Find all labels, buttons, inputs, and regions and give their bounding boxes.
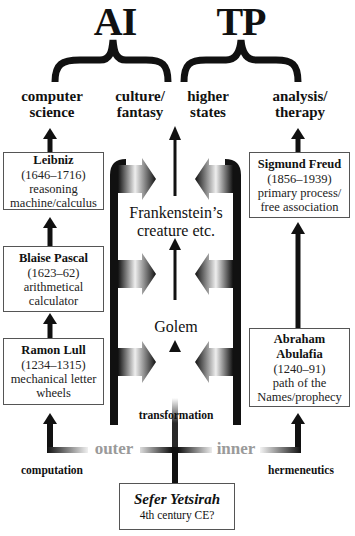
- left-gradient-arrows: [118, 158, 156, 383]
- leibniz-box: Leibniz (1646–1716) reasoning machine/ca…: [3, 152, 104, 210]
- hermeneutics-label: hermeneutics: [258, 465, 344, 477]
- left-thick-bar: [114, 163, 126, 425]
- computation-label: computation: [12, 465, 92, 477]
- frankenstein-label: Frankenstein’s creature etc.: [120, 204, 232, 240]
- sefer-yetsirah-box: Sefer Yetsirah 4th century CE?: [119, 483, 235, 530]
- pascal-box: Blaise Pascal (1623–62) arithmetical cal…: [3, 246, 104, 312]
- category-analysis-therapy: analysis/ therapy: [258, 88, 342, 120]
- category-culture-fantasy: culture/ fantasy: [108, 88, 172, 120]
- ai-group-title: AI: [86, 2, 144, 42]
- outer-label: outer: [88, 440, 140, 457]
- right-thick-bar: [225, 163, 237, 425]
- center-arrows: [169, 126, 181, 403]
- lull-box: Ramon Lull (1234–1315) mechanical letter…: [3, 338, 104, 405]
- right-gradient-arrows: [195, 158, 233, 383]
- transformation-label: transformation: [130, 410, 222, 422]
- abulafia-box: Abraham Abulafia (1240–91) path of the N…: [249, 328, 350, 407]
- ai-brace: [55, 40, 168, 82]
- inner-label: inner: [212, 440, 260, 457]
- golem-label: Golem: [140, 318, 212, 336]
- category-computer-science: computer science: [2, 88, 102, 120]
- tp-group-title: TP: [209, 2, 273, 42]
- diagram-canvas: AI TP computer science culture/ fantasy …: [0, 0, 355, 536]
- freud-box: Sigmund Freud (1856–1939) primary proces…: [249, 152, 350, 218]
- category-higher-states: higher states: [180, 88, 236, 120]
- tp-brace: [184, 40, 298, 82]
